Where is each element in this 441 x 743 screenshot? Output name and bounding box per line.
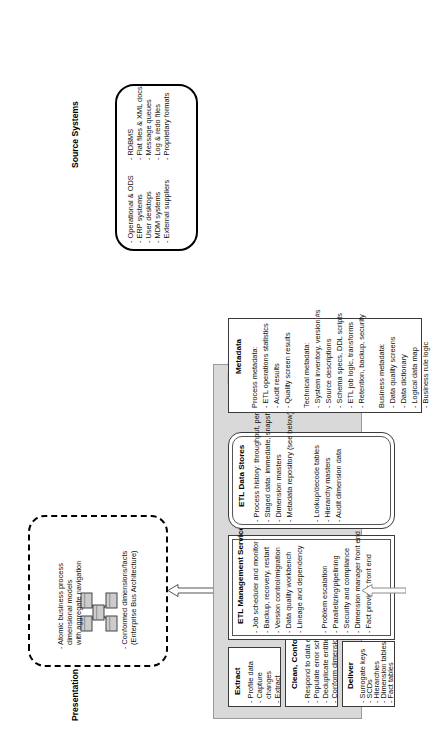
extract-item-1: - Capture: [255, 672, 264, 703]
stores-right-2: - Audit dimension data: [334, 449, 343, 522]
stores-left-2: - Dimension masters: [274, 454, 283, 522]
mgmt-left-4: - Lineage and dependency: [295, 545, 304, 633]
mgmt-right-0: - Problem escalation: [320, 566, 329, 633]
mgmt-left-2: - Version control/migration: [273, 547, 282, 633]
source-right-3: - Log & redo files: [153, 104, 162, 160]
mgmt-right-2: - Security and compliance: [342, 548, 351, 633]
presentation-server-bullet-1: - Atomic business process dimensional mo…: [56, 561, 83, 649]
source-left-2: - User desktops: [144, 191, 153, 243]
metadata-business-item-1: - Data dictionary: [399, 354, 408, 408]
source-right-2: - Message queues: [144, 99, 153, 160]
metadata-technical-item-1: - Source descriptions: [324, 339, 333, 408]
metadata-business-item-2: - Logical data map: [410, 347, 419, 408]
metadata-business-item-0: - Data quality screens: [388, 337, 397, 408]
mgmt-right-1: - Parallelizing/pipelining: [331, 555, 340, 633]
source-right-4: - Proprietary formats: [162, 93, 171, 160]
clean-conform-item-2: - Deduplicate entities: [321, 634, 330, 703]
mgmt-right-3: - Dimension manager front end: [353, 531, 362, 633]
stores-right-1: - Hierarchy masters: [323, 458, 332, 522]
mgmt-left-1: - Backup, recovery, restart: [262, 547, 271, 633]
metadata-process-item-0: - ETL operations statistics: [261, 323, 270, 408]
arrow-source-to-etl: [362, 584, 406, 597]
metadata-technical-label: Technical metadata:: [302, 342, 311, 408]
extract-item-3: - Extract: [273, 675, 282, 703]
metadata-technical-item-4: - Retention, backup, security: [357, 314, 366, 408]
metadata-business-item-3: - Business rule logic: [421, 342, 430, 408]
metadata-process-item-2: - Quality screen results: [283, 332, 292, 408]
arrow-etl-to-presentation: [168, 584, 214, 597]
diagram-canvas: Presentation Server - Atomic b: [0, 0, 441, 743]
source-right-0: - RDBMS: [126, 129, 135, 160]
metadata-header: Metadata: [234, 339, 243, 374]
metadata-process-item-1: - Audit results: [272, 363, 281, 408]
metadata-technical-item-2: - Schema specs, DDL scripts: [335, 313, 344, 408]
source-systems-title: Source Systems: [70, 101, 80, 168]
stores-left-3: - Metadata repository (see below): [285, 412, 294, 522]
source-right-1: - Flat files & XML docs: [135, 86, 144, 160]
etl-data-stores-header: ETL Data Stores: [237, 445, 246, 507]
mgmt-left-0: - Job scheduler and monitor: [251, 541, 260, 633]
deliver-header: Deliver: [346, 662, 355, 689]
extract-item-2: changes: [264, 671, 273, 703]
metadata-process-label: Process metadata:: [250, 346, 259, 408]
etl-management-services-header: ETL Management Services: [236, 522, 245, 624]
stores-right-0: - Lookup/decode tables: [312, 445, 321, 522]
source-left-3: - MDM systems: [153, 192, 162, 243]
source-left-4: - External suppliers: [162, 180, 171, 243]
extract-header: Extract: [233, 668, 242, 695]
source-left-0: - Operational & ODS: [126, 175, 135, 243]
metadata-technical-item-3: - ETL job logic, transforms: [346, 322, 355, 408]
mgmt-left-3: - Data quality workbench: [284, 552, 293, 633]
presentation-server-bullet-2: - Conformed dimensions/facts (Enterprise…: [120, 550, 138, 649]
source-left-1: - ERP systems: [135, 194, 144, 243]
clean-conform-item-3: - Conform dimensions: [330, 631, 339, 703]
deliver-item-4: - Fact tables: [386, 662, 395, 703]
extract-item-0: - Profile data: [246, 661, 255, 703]
metadata-technical-item-0: - System inventory, version #s: [313, 310, 322, 408]
metadata-business-label: Business metadata:: [377, 343, 386, 408]
